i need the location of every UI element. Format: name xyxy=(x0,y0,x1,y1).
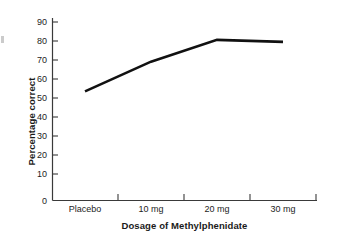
x-tick-labels: Placebo 10 mg 20 mg 30 mg xyxy=(69,204,296,214)
y-tick-label-50: 50 xyxy=(37,93,47,103)
figure-container: Percentage correct Dosage of Methylpheni… xyxy=(0,0,338,243)
y-tick-label-10: 10 xyxy=(37,169,47,179)
line-chart-plot: 90 80 70 60 50 40 30 20 10 0 Placebo 10 … xyxy=(0,0,338,243)
y-tick-labels: 90 80 70 60 50 40 30 20 10 0 xyxy=(37,17,47,206)
data-series-line xyxy=(85,40,283,92)
x-tick-label-30mg: 30 mg xyxy=(270,204,295,214)
y-tick-label-20: 20 xyxy=(37,150,47,160)
y-tick-label-40: 40 xyxy=(37,112,47,122)
y-tick-label-30: 30 xyxy=(37,131,47,141)
x-tick-label-20mg: 20 mg xyxy=(204,204,229,214)
y-tick-marks xyxy=(53,22,59,174)
x-tick-label-placebo: Placebo xyxy=(69,204,102,214)
y-tick-label-0: 0 xyxy=(42,196,47,206)
x-tick-marks xyxy=(118,194,316,201)
y-tick-label-90: 90 xyxy=(37,17,47,27)
x-tick-label-10mg: 10 mg xyxy=(138,204,163,214)
y-tick-label-70: 70 xyxy=(37,55,47,65)
y-tick-label-80: 80 xyxy=(37,36,47,46)
y-tick-label-60: 60 xyxy=(37,74,47,84)
